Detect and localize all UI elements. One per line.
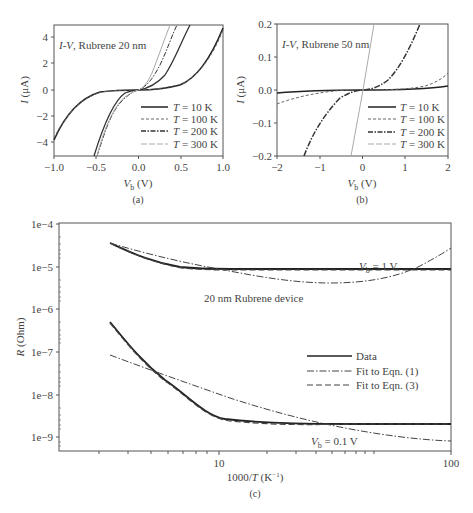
ytick-label: 1e−6	[31, 303, 54, 315]
panel-a-xlabel: Vb (V)	[124, 177, 153, 192]
ytick-label: 4	[43, 31, 49, 43]
legend-label-10K: T = 10 K	[400, 101, 440, 113]
legend-label-fit-eqn1: Fit to Eqn. (1)	[356, 365, 419, 378]
panel-c-ylabel: R (Ohm)	[14, 317, 27, 357]
legend-label-100K: T = 100 K	[173, 113, 218, 125]
panel-a-xtick-labels: −1.0 −0.5 0.0 0.5 1.0	[44, 161, 230, 173]
ytick-label: 1e−4	[31, 218, 54, 230]
panel-c-label: (c)	[249, 488, 260, 500]
ytick-label: 0.2	[258, 18, 272, 30]
panel-a-label: (a)	[132, 194, 143, 206]
panel-c: 1e−4 1e−5 1e−6 1e−7 1e−8 1e−9 10 100 Vb …	[14, 218, 460, 500]
xtick-label: 2	[445, 161, 451, 173]
panel-c-xlabel: 1000/T (K−1)	[227, 471, 284, 484]
figure: −1.0 −0.5 0.0 0.5 1.0 4 2 0 −2 −4 I-V, R…	[0, 0, 473, 513]
xtick-label: −0.5	[86, 161, 106, 173]
ytick-label: 1e−8	[31, 389, 54, 401]
panel-c-xtick-labels: 10 100	[214, 457, 460, 469]
panel-b: −2 −1 0 1 2 0.2 0.1 0.0 −0.1 −0.2 I-V, R…	[234, 18, 451, 206]
legend-label-100K: T = 100 K	[400, 113, 445, 125]
panel-b-label: (b)	[356, 194, 368, 206]
panel-a-ylabel: I (μA)	[18, 76, 31, 105]
panel-a: −1.0 −0.5 0.0 0.5 1.0 4 2 0 −2 −4 I-V, R…	[18, 25, 230, 206]
ytick-label: 0.1	[258, 51, 272, 63]
xtick-label: −1	[314, 161, 326, 173]
annotation-device: 20 nm Rubrene device	[204, 292, 303, 304]
panel-b-xtick-labels: −2 −1 0 1 2	[271, 161, 451, 173]
ytick-label: −0.2	[252, 150, 272, 162]
ytick-label: 1e−5	[31, 261, 54, 273]
panel-c-ticks	[56, 224, 451, 455]
xtick-label: −1.0	[44, 161, 64, 173]
ytick-label: −0.1	[252, 117, 272, 129]
panel-c-curves	[110, 243, 451, 441]
panel-a-annotation: I-V, Rubrene 20 nm	[58, 39, 147, 51]
legend-label-200K: T = 200 K	[400, 126, 445, 138]
panel-b-legend: T = 10 K T = 100 K T = 200 K T = 300 K	[368, 101, 445, 150]
xtick-label: 100	[443, 457, 460, 469]
legend-label-200K: T = 200 K	[173, 125, 218, 137]
panel-b-xlabel: Vb (V)	[348, 177, 377, 192]
xtick-label: 0.5	[174, 161, 188, 173]
xtick-label: 1	[402, 161, 408, 173]
ytick-label: 1e−9	[31, 431, 54, 443]
annotation-vb01: Vb = 0.1 V	[311, 435, 358, 450]
panel-b-ylabel: I (μA)	[234, 76, 247, 105]
annotation-vb1: Vb = 1 V	[359, 260, 397, 275]
ytick-label: 0.0	[258, 84, 272, 96]
panel-c-legend: Data Fit to Eqn. (1) Fit to Eqn. (3)	[307, 350, 419, 392]
ytick-label: 2	[43, 57, 49, 69]
ytick-label: −4	[36, 136, 48, 148]
xtick-label: 0	[360, 161, 366, 173]
legend-label-300K: T = 300 K	[400, 138, 445, 150]
ytick-label: 0	[43, 84, 49, 96]
panel-b-annotation: I-V, Rubrene 50 nm	[281, 38, 370, 50]
panel-a-legend: T = 10 K T = 100 K T = 200 K T = 300 K	[141, 101, 218, 150]
panel-c-frame	[59, 223, 451, 451]
panel-c-ytick-labels: 1e−4 1e−5 1e−6 1e−7 1e−8 1e−9	[31, 218, 54, 443]
xtick-label: 0.0	[132, 161, 146, 173]
legend-label-data: Data	[356, 350, 377, 362]
panel-a-ytick-labels: 4 2 0 −2 −4	[36, 31, 48, 148]
xtick-label: 1.0	[216, 161, 230, 173]
data-vb1	[110, 243, 451, 269]
xtick-label: 10	[214, 457, 226, 469]
legend-label-10K: T = 10 K	[173, 101, 213, 113]
legend-label-300K: T = 300 K	[173, 138, 218, 150]
legend-label-fit-eqn3: Fit to Eqn. (3)	[356, 379, 419, 392]
xtick-label: −2	[271, 161, 283, 173]
panel-b-ytick-labels: 0.2 0.1 0.0 −0.1 −0.2	[252, 18, 272, 162]
ytick-label: 1e−7	[31, 346, 54, 358]
ytick-label: −2	[36, 110, 48, 122]
